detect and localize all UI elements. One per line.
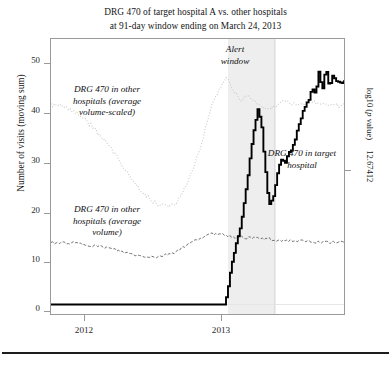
y-tick-label-20: 20 (14, 210, 40, 211)
x-tick-mark-2012 (84, 315, 85, 321)
annotation-other-scaled: DRG 470 in other hospitals (average volu… (48, 84, 166, 119)
y-tick-label-40: 40 (14, 110, 40, 111)
plot-lines (51, 39, 344, 314)
y-tick-label-50: 50 (14, 60, 40, 61)
y-axis-right-label-suffix: value) (365, 117, 375, 141)
chart-title: DRG 470 of target hospital A vs. other h… (0, 6, 391, 33)
annotation-other-average: DRG 470 in other hospitals (average volu… (48, 204, 166, 239)
annotation-alert-window: Alert window (186, 44, 284, 67)
chart-title-line-1: DRG 470 of target hospital A vs. other h… (0, 6, 391, 20)
y-tick-label-0: 0 (14, 308, 40, 309)
y-axis-left-label: Number of visits (moving sum) (16, 43, 26, 223)
y-tick-label-10: 10 (14, 259, 40, 260)
y-tick-label-30: 30 (14, 160, 40, 161)
x-tick-label-2012: 2012 (54, 325, 114, 335)
x-tick-label-2013: 2013 (191, 325, 251, 335)
bottom-divider (2, 352, 389, 354)
plot-area (50, 38, 345, 315)
y-axis-right-tick-value: 12.67412 (365, 150, 375, 182)
chart-title-line-2: at 91-day window ending on March 24, 201… (0, 20, 391, 34)
figure-container: DRG 470 of target hospital A vs. other h… (0, 0, 391, 365)
annotation-target: DRG 470 in target hospital (252, 148, 352, 171)
y-axis-right-label: log10 (p value)12.67412 (365, 70, 375, 200)
x-tick-mark-2013 (221, 315, 222, 321)
y-axis-right-label-prefix: log10 ( (365, 88, 375, 113)
